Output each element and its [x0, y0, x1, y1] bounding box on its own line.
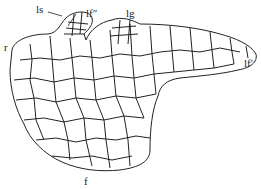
label-lg: lg: [126, 8, 135, 19]
tissue-outline: [10, 12, 256, 171]
label-f-prime: lf': [244, 58, 253, 69]
label-ls: ls: [36, 4, 43, 15]
label-f: f: [84, 176, 88, 187]
cell-diagram: [0, 0, 261, 189]
label-f-double-prime: lf″: [86, 8, 97, 19]
label-r: r: [4, 42, 8, 53]
